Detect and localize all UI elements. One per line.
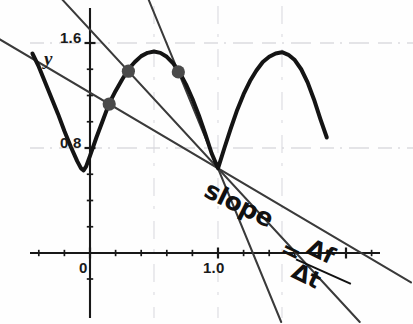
figure-canvas: 1.6 0.8 0 1.0 y slope = Δf Δt bbox=[0, 0, 413, 324]
y-axis-label: y bbox=[44, 48, 52, 70]
x-tick-label-0: 0 bbox=[79, 259, 87, 276]
x-tick-label-1.0: 1.0 bbox=[203, 259, 224, 276]
secant-point-3 bbox=[172, 65, 185, 78]
secant-point-2 bbox=[122, 65, 135, 78]
secant-point-1 bbox=[103, 97, 116, 110]
y-tick-label-0.8: 0.8 bbox=[60, 134, 81, 151]
y-tick-label-1.6: 1.6 bbox=[60, 29, 81, 46]
